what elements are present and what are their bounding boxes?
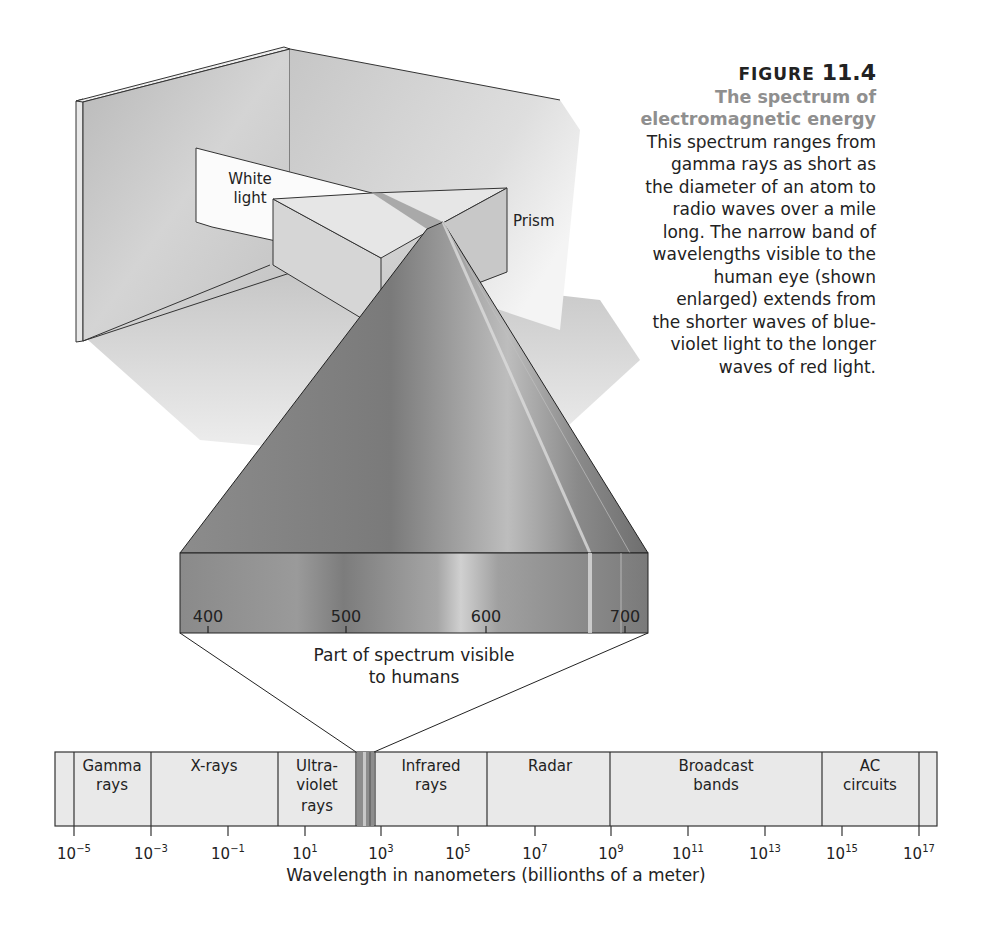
figure-title: The spectrum of electromagnetic energy (546, 86, 876, 131)
band-label-ultraviolet: Ultra-violetrays (296, 757, 338, 815)
band-label-xrays: X-rays (191, 757, 238, 775)
svg-text:101: 101 (292, 843, 317, 863)
svg-text:10−5: 10−5 (57, 843, 91, 863)
svg-text:1017: 1017 (903, 843, 935, 863)
svg-text:105: 105 (445, 843, 470, 863)
svg-text:1011: 1011 (672, 843, 704, 863)
svg-text:103: 103 (368, 843, 393, 863)
svg-text:1013: 1013 (749, 843, 781, 863)
visible-spectrum-band (180, 553, 648, 633)
figure-label: FIGURE 11.4 (546, 62, 876, 86)
visible-tick-400: 400 (193, 607, 224, 626)
svg-text:1015: 1015 (826, 843, 858, 863)
x-axis-label: Wavelength in nanometers (billionths of … (286, 865, 705, 885)
figure-caption: FIGURE 11.4 The spectrum of electromagne… (546, 62, 876, 378)
visible-tick-700: 700 (610, 607, 641, 626)
axis-tick-labels: 10−5 10−3 10−1 101 103 105 107 109 1011 … (57, 843, 935, 863)
white-light-label: Whitelight (228, 170, 272, 207)
visible-tick-500: 500 (331, 607, 362, 626)
svg-text:109: 109 (598, 843, 623, 863)
figure-description: This spectrum ranges from gamma rays as … (546, 131, 876, 379)
visible-tick-600: 600 (471, 607, 502, 626)
axis-ticks (74, 826, 919, 836)
svg-text:10−3: 10−3 (134, 843, 168, 863)
svg-text:107: 107 (522, 843, 547, 863)
visible-caption: Part of spectrum visibleto humans (314, 645, 515, 687)
em-spectrum-bar (55, 752, 937, 826)
svg-text:10−1: 10−1 (211, 843, 245, 863)
band-label-radar: Radar (528, 757, 573, 775)
